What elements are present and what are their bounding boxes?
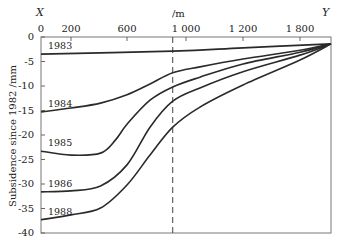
y-tick-label: -30 [18,179,34,189]
subsidence-curves [41,44,331,220]
curve-label-1984: 1984 [48,99,72,109]
y-tick-label: 0 [28,32,34,42]
y-tick-label: -40 [18,228,34,238]
x-tick-label: 1 000 [172,24,201,34]
x-tick-label: 600 [117,24,136,34]
x-end-label: Y [322,8,329,18]
y-tick-label: -15 [18,106,34,116]
y-tick-label: -25 [18,155,34,165]
x-tick-label: 1 200 [229,24,258,34]
x-tick-label: 1 800 [286,24,315,34]
x-tick-label: 0 [38,24,44,34]
y-tick-label: -5 [24,57,34,67]
x-start-label: X [36,8,44,18]
y-tick-label: -20 [18,130,34,140]
x-axis-unit: /m [172,9,185,19]
y-axis-ticks [41,37,45,233]
x-axis-ticks [71,37,300,41]
x-tick-label: 200 [61,24,80,34]
curve-1985 [41,44,331,155]
y-tick-label: -35 [18,204,34,214]
curve-label-1988: 1988 [48,207,72,217]
y-tick-label: -10 [18,81,34,91]
y-axis-title: Subsidence since 1982 /mm [7,65,18,207]
curve-label-1985: 1985 [48,138,72,148]
curve-label-1986: 1986 [48,179,72,189]
curve-label-1983: 1983 [48,41,72,51]
